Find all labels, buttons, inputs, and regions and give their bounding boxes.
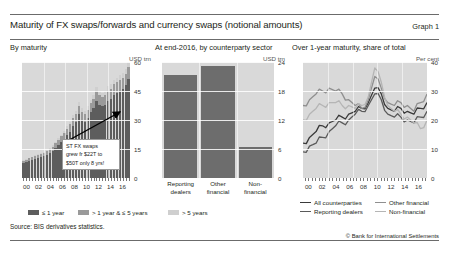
line-series-path: [303, 88, 427, 144]
y-tick-label: 40: [431, 59, 438, 66]
x-tick-label: 00: [305, 183, 312, 190]
legend-label-gt-5-years: > 5 years: [182, 209, 208, 216]
y-tick-label: 30: [431, 88, 438, 95]
panel-heading-middle: At end-2016, by counterparty sector: [155, 43, 273, 52]
legend-line-other-financial: [375, 202, 386, 203]
x-tick-label: 04: [47, 183, 54, 190]
line-series-path: [303, 77, 427, 112]
legend-item-other-financial: Other financial: [375, 199, 429, 206]
y-tick-label: 0: [278, 175, 281, 182]
x-tick-marks: [22, 178, 130, 182]
x-tick-label: 14: [401, 183, 408, 190]
legend-label-non-financial: Non-financial: [389, 208, 425, 215]
legend-label-reporting-dealers: Reporting dealers: [314, 208, 363, 215]
legend-line-non-financial: [375, 211, 386, 212]
page-title: Maturity of FX swaps/forwards and curren…: [10, 19, 302, 30]
category-label: Reportingdealers: [162, 180, 199, 196]
legend-label-le-1-year: ≤ 1 year: [42, 209, 64, 216]
legend-item-reporting-dealers: Reporting dealers: [300, 208, 363, 215]
y-tick-label: 15: [134, 146, 141, 153]
legend-swatch-le-1-year: [28, 210, 39, 215]
y-tick-label: 24: [278, 59, 285, 66]
category-label: Otherfinancial: [199, 180, 236, 196]
x-tick-label: 16: [415, 183, 422, 190]
y-tick-label: 18: [278, 88, 285, 95]
legend-label-all-counterparties: All counterparties: [314, 199, 362, 206]
chart-over-1-year-share: [303, 62, 427, 178]
y-tick-label: 20: [431, 117, 438, 124]
rule-bottom: [10, 240, 439, 241]
x-tick-label: 10: [83, 183, 90, 190]
x-tick-label: 02: [319, 183, 326, 190]
panel-heading-left: By maturity: [10, 43, 47, 52]
legend-line-all-counterparties: [300, 202, 311, 203]
y-tick-label: 6: [278, 146, 281, 153]
y-tick-label: 10: [431, 146, 438, 153]
legend-item-all-counterparties: All counterparties: [300, 199, 362, 206]
legend-swatch-gt-5-years: [168, 210, 179, 215]
x-tick-label: 00: [23, 183, 30, 190]
x-tick-label: 12: [388, 183, 395, 190]
legend-label-gt-1-le-5-years: > 1 year & ≤ 5 years: [92, 209, 148, 216]
bar-segment: [127, 79, 129, 178]
x-tick-label: 16: [119, 183, 126, 190]
x-tick-label: 14: [107, 183, 114, 190]
x-tick-label: 06: [346, 183, 353, 190]
chart-by-counterparty-sector: [162, 62, 274, 178]
legend-item-le-1-year: ≤ 1 year: [28, 209, 64, 216]
category-label: Non-financial: [237, 180, 274, 196]
legend-item-non-financial: Non-financial: [375, 208, 425, 215]
x-tick-label: 12: [95, 183, 102, 190]
legend-item-gt-5-years: > 5 years: [168, 209, 208, 216]
graph-number: Graph 1: [412, 22, 439, 31]
bar: [201, 66, 235, 178]
legend-item-gt-1-le-5-years: > 1 year & ≤ 5 years: [78, 209, 148, 216]
copyright-note: © Bank for International Settlements: [346, 233, 439, 239]
x-tick-label: 02: [35, 183, 42, 190]
y-tick-label: 30: [134, 117, 141, 124]
rule-top: [10, 14, 439, 15]
y-tick-label: 0: [431, 175, 434, 182]
source-note: Source: BIS derivatives statistics.: [10, 223, 104, 230]
rule-under-title: [10, 39, 439, 40]
legend-label-other-financial: Other financial: [389, 199, 429, 206]
line-series-path: [303, 94, 427, 153]
x-tick-label: 06: [59, 183, 66, 190]
y-tick-label: 45: [134, 88, 141, 95]
graph-page: Maturity of FX swaps/forwards and curren…: [0, 0, 449, 253]
y-tick-label: 60: [134, 59, 141, 66]
x-tick-marks: [303, 178, 427, 182]
chart-annotation: ST FX swaps grew fr $22T to $50T only 8 …: [62, 139, 120, 170]
y-tick-label: 0: [134, 175, 137, 182]
bar: [239, 147, 273, 178]
annotation-line-2: grew fr $22T to: [66, 150, 116, 158]
x-tick-label: 04: [332, 183, 339, 190]
annotation-line-1: ST FX swaps: [66, 142, 116, 150]
legend-line-reporting-dealers: [300, 211, 311, 212]
annotation-line-3: $50T only 8 yrs!: [66, 159, 116, 167]
x-tick-label: 08: [71, 183, 78, 190]
panel-heading-right: Over 1-year maturity, share of total: [292, 43, 406, 52]
bar-segment: [127, 67, 129, 79]
x-tick-label: 10: [374, 183, 381, 190]
legend-swatch-gt-1-le-5-years: [78, 210, 89, 215]
x-tick-label: 08: [360, 183, 367, 190]
y-tick-label: 12: [278, 117, 285, 124]
